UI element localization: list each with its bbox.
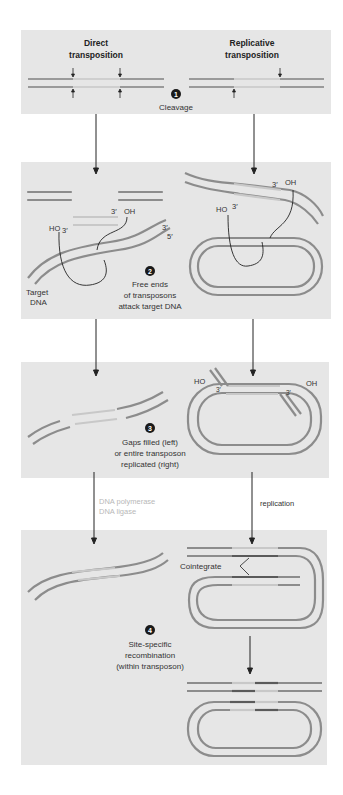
label-ho-right: HO <box>216 205 227 214</box>
dna-ligase-label: DNA ligase <box>99 507 136 516</box>
header-replicative-line1: Replicative <box>230 38 275 48</box>
step-4-line-1: Site-specific <box>128 640 171 649</box>
label-ho-p3: HO <box>194 377 205 386</box>
step-2-line-2: of transposons <box>124 291 176 300</box>
step-4-line-2: recombination <box>125 651 175 660</box>
replication-label: replication <box>260 499 294 508</box>
label-3prime: 3′ <box>111 207 117 216</box>
header-direct-line1: Direct <box>84 38 108 48</box>
label-3prime-target: 3′ <box>162 223 168 232</box>
step-4-line-3: (within transposon) <box>116 662 184 671</box>
dna-polymerase-label: DNA polymerase <box>99 497 155 506</box>
label-oh-right: OH <box>285 178 296 187</box>
step-2-line-1: Free ends <box>132 280 168 289</box>
header-direct-line2: transposition <box>69 50 123 60</box>
label-oh-p3: OH <box>306 379 317 388</box>
cointegrate-label: Cointegrate <box>180 562 222 571</box>
step-1-label: Cleavage <box>159 103 193 112</box>
svg-text:1: 1 <box>174 91 178 98</box>
step-1-badge: 1 <box>171 89 181 99</box>
panel-recombination <box>21 530 327 765</box>
step-3-line-2: or entire transposon <box>114 449 185 458</box>
label-5prime-target: 5′ <box>167 232 173 241</box>
label-3prime-right: 3′ <box>272 180 278 189</box>
panel-cleavage <box>21 30 331 114</box>
step-4-badge: 4 <box>145 625 155 635</box>
label-oh: OH <box>124 207 135 216</box>
step-2-badge: 2 <box>145 266 155 276</box>
svg-text:3: 3 <box>148 425 152 432</box>
label-3prime-p3-2: 3′ <box>286 389 292 396</box>
svg-text:2: 2 <box>148 268 152 275</box>
header-replicative-line2: transposition <box>225 50 279 60</box>
step-3-line-3: replicated (right) <box>121 460 179 469</box>
label-3prime-right-2: 3′ <box>232 202 238 211</box>
target-dna-label-1: Target <box>26 288 49 297</box>
label-3prime-p3: 3′ <box>216 386 222 393</box>
transposition-diagram: Direct transposition Replicative transpo… <box>0 0 343 795</box>
step-2-line-3: attack target DNA <box>118 302 182 311</box>
svg-text:4: 4 <box>148 627 152 634</box>
label-3prime-left: 3′ <box>62 226 68 235</box>
step-3-badge: 3 <box>145 423 155 433</box>
label-ho: HO <box>49 224 60 233</box>
target-dna-label-2: DNA <box>30 298 48 307</box>
step-3-line-1: Gaps filled (left) <box>122 438 178 447</box>
